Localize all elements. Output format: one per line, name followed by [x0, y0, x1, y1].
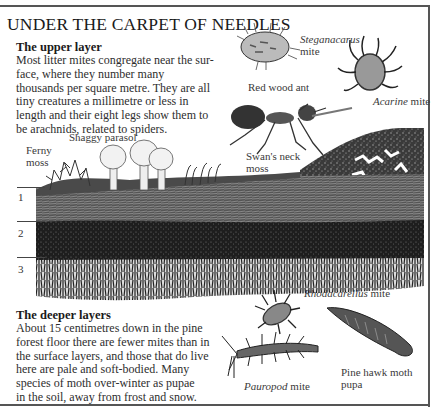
label-steganacarus-mite: Steganacarus mite	[300, 33, 360, 57]
pine-hawk-moth-pupa-drawing	[327, 308, 412, 356]
text-line: forest floor there are fewer mites than …	[16, 336, 210, 350]
pauropod-mite-drawing	[222, 332, 318, 378]
label-ferny-moss: Ferny moss	[26, 144, 52, 168]
red-wood-ant-drawing	[230, 104, 352, 155]
text-line: the surface layers, and those that do li…	[16, 350, 210, 364]
rhodacarellus-mite-drawing	[255, 290, 300, 334]
deeper-layers-text: About 15 centimetres down in the pine fo…	[16, 322, 210, 405]
layer-1-number: 1	[18, 191, 24, 203]
layer-2-marker-line	[17, 221, 45, 222]
label-rhodacarellus-mite: Rhodacarellus mite	[304, 287, 390, 299]
label-acarine-mite: Acarine mite	[373, 95, 430, 107]
label-suffix: mite	[290, 380, 310, 392]
label-pauropod-mite: Pauropod mite	[244, 380, 310, 392]
label-line: Pine hawk moth	[341, 366, 413, 378]
label-line: moss	[26, 156, 52, 168]
layer-2-number: 2	[18, 227, 24, 239]
label-pine-hawk-moth-pupa: Pine hawk moth pupa	[341, 366, 413, 390]
text-line: in the soil, away from frost and snow.	[16, 391, 210, 405]
layer-3-number: 3	[18, 263, 24, 275]
text-line: About 15 centimetres down in the pine	[16, 322, 210, 336]
label-species: Rhodacarellus	[304, 287, 368, 299]
label-line: Swan's neck	[246, 150, 300, 162]
label-line: moss	[246, 162, 300, 174]
text-line: here are pale and soft-bodied. Many	[16, 363, 210, 377]
label-line: pupa	[341, 378, 413, 390]
label-suffix: mite	[371, 287, 391, 299]
label-suffix: mite	[411, 95, 431, 107]
label-species: Steganacarus	[300, 33, 360, 45]
layer-3-marker-line	[17, 257, 45, 258]
label-suffix: mite	[300, 45, 360, 57]
label-species: Acarine	[373, 95, 408, 107]
steganacarus-mite-drawing	[237, 23, 300, 70]
label-species: Pauropod	[244, 380, 288, 392]
label-shaggy-parasol: Shaggy parasol	[69, 131, 137, 143]
layer-1-marker-line	[17, 187, 45, 188]
label-line: Ferny	[26, 144, 52, 156]
label-swans-neck-moss: Swan's neck moss	[246, 150, 300, 174]
text-line: species of moth over-winter as pupae	[16, 377, 210, 391]
label-red-wood-ant: Red wood ant	[248, 81, 309, 93]
